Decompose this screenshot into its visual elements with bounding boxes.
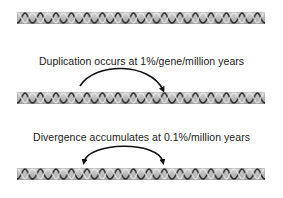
dna-helix-icon <box>17 168 265 180</box>
dna-strip-diverged <box>17 168 265 180</box>
